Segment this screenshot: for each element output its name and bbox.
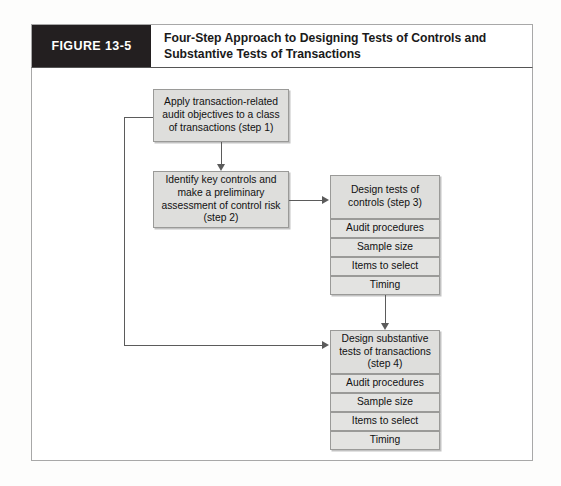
node-substantive-attribute-items-to-select: Items to select — [330, 412, 440, 431]
figure-number-tag: FIGURE 13-5 — [32, 25, 151, 67]
connector-step1-to-step2 — [221, 142, 222, 165]
node-substantive-attribute-timing: Timing — [330, 431, 440, 450]
node-substantive-attribute-sample-size: Sample size — [330, 393, 440, 412]
node-controls-attribute-items-to-select: Items to select — [330, 257, 440, 276]
node-controls-attribute-audit-procedures: Audit procedures — [330, 219, 440, 238]
figure-root: FIGURE 13-5 Four-Step Approach to Design… — [0, 0, 561, 486]
figure-title: Four-Step Approach to Designing Tests of… — [151, 25, 532, 67]
arrowhead-into-step4 — [322, 341, 329, 349]
connector-step2-to-step3 — [289, 200, 323, 201]
node-step1-apply-transaction-related-objectives: Apply transaction-related audit objectiv… — [153, 89, 289, 142]
arrowhead-into-step2 — [217, 164, 225, 171]
flowchart-canvas: Apply transaction-related audit objectiv… — [31, 68, 533, 461]
connector-step1-to-step4-vertical-segment — [124, 117, 125, 346]
connector-step1-to-step4-top-segment — [124, 117, 153, 118]
node-step4-design-substantive-tests-of-transactions: Design substantive tests of transactions… — [330, 330, 440, 374]
figure-header: FIGURE 13-5 Four-Step Approach to Design… — [31, 24, 533, 68]
node-controls-attribute-timing: Timing — [330, 276, 440, 295]
node-step3-design-tests-of-controls: Design tests of controls (step 3) — [330, 175, 440, 219]
node-step2-identify-key-controls: Identify key controls and make a prelimi… — [153, 171, 289, 228]
arrowhead-into-step4-from-controls — [381, 323, 389, 330]
node-controls-attribute-sample-size: Sample size — [330, 238, 440, 257]
arrowhead-into-step3 — [322, 196, 329, 204]
connector-step1-to-step4-bottom-segment — [124, 345, 323, 346]
connector-step3-to-step4 — [385, 295, 386, 324]
node-substantive-attribute-audit-procedures: Audit procedures — [330, 374, 440, 393]
